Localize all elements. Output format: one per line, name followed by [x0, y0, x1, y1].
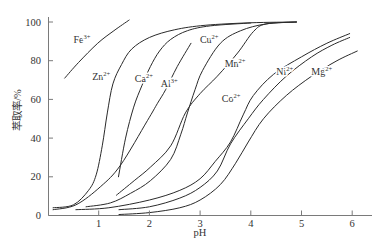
label-symbol: Ca [135, 73, 147, 84]
axes-layer [49, 17, 373, 216]
label-symbol: Cu [200, 34, 212, 45]
curve-cu [86, 22, 296, 207]
x-tick-label: 1 [96, 218, 101, 229]
y-tick-label: 20 [31, 171, 42, 182]
label-mn: Mn2+ [225, 57, 246, 69]
label-charge: 2+ [325, 65, 332, 72]
label-charge: 3+ [171, 77, 178, 84]
label-charge: 2+ [239, 57, 246, 64]
label-symbol: Ni [276, 66, 286, 77]
y-axis-title: 萃取率/% [11, 89, 23, 131]
x-tick-label: 4 [248, 218, 254, 229]
label-al: Al3+ [161, 77, 178, 89]
x-tick-label: 5 [299, 218, 304, 229]
label-zn: Zn2+ [92, 70, 110, 82]
label-charge: 2+ [286, 65, 293, 72]
y-tick-label: 80 [31, 55, 42, 66]
label-fe: Fe3+ [74, 33, 91, 45]
curve-zn [53, 22, 296, 208]
label-cu: Cu2+ [200, 33, 219, 45]
curve-mn [116, 22, 296, 195]
curve-labels: Fe3+Zn2+Ca2+Al3+Cu2+Mn2+Co2+Ni2+Mg2+ [74, 33, 333, 103]
label-charge: 2+ [233, 92, 240, 99]
label-co: Co2+ [222, 92, 241, 104]
extraction-rate-vs-ph-chart: 123456 020406080100 Fe3+Zn2+Ca2+Al3+Cu2+… [0, 0, 385, 250]
label-charge: 2+ [103, 70, 110, 77]
y-tick-label: 100 [25, 17, 41, 28]
x-axis-title: pH [194, 227, 207, 238]
curve-co [76, 34, 350, 210]
label-symbol: Mg [311, 66, 325, 77]
label-symbol: Al [161, 78, 171, 89]
label-symbol: Fe [74, 34, 85, 45]
y-tick-label: 40 [31, 133, 42, 144]
label-symbol: Co [222, 93, 234, 104]
x-tick-label: 6 [350, 218, 355, 229]
label-symbol: Zn [92, 71, 103, 82]
y-tick-label: 60 [31, 94, 42, 105]
label-charge: 2+ [146, 72, 153, 79]
label-ca: Ca2+ [135, 72, 153, 84]
label-symbol: Mn [225, 58, 239, 69]
label-charge: 3+ [84, 33, 91, 40]
label-charge: 2+ [212, 33, 219, 40]
x-tick-label: 2 [147, 218, 152, 229]
label-mg: Mg2+ [311, 65, 332, 77]
label-ni: Ni2+ [276, 65, 293, 77]
y-tick-label: 0 [36, 210, 41, 221]
curves-layer [53, 20, 357, 214]
